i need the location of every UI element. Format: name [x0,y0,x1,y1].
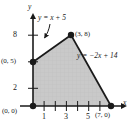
x-tick-label-3: 3 [64,113,68,121]
x-axis-label: x [123,99,126,107]
leader-arrow-line1 [45,24,51,38]
point-label-7-0: (7, 0) [95,112,110,119]
equation-label-line2: y = −2x + 14 [77,52,118,60]
point-label-0-5: (0, 5) [1,58,16,65]
coordinate-plane-figure: y x 8 2 1 3 5 (0, 0) (0, 5) (3, 8) (7, 0… [0,0,131,133]
vertex-dot-0-5 [30,59,36,65]
point-label-origin: (0, 0) [2,108,17,115]
shaded-region [33,35,111,106]
vertex-dot-7-0 [108,103,114,109]
y-tick-label-2: 2 [13,84,17,92]
equation-label-line1: y = x + 5 [38,14,66,22]
x-tick-label-1: 1 [42,113,46,121]
vertex-dot-origin [30,103,36,109]
point-label-3-8: (3, 8) [75,31,90,38]
y-tick-label-8: 8 [13,31,17,39]
vertex-dot-3-8 [68,32,74,38]
y-axis-label: y [28,3,31,11]
x-tick-label-5: 5 [86,113,90,121]
